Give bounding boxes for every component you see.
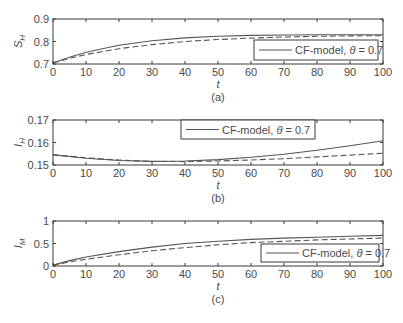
x-tick-label: 100	[374, 167, 392, 179]
y-tick-label: 0.8	[34, 36, 49, 48]
legend: CF-model, θ = 0.7	[181, 120, 315, 139]
y-axis-label: SH	[12, 35, 27, 48]
panel-c: 010203040506070809010000.51IMt(c)CF-mode…	[12, 215, 392, 305]
x-tick-label: 70	[278, 167, 290, 179]
x-tick-label: 80	[311, 268, 323, 280]
panel-caption: (a)	[211, 91, 224, 103]
panel-a: 01020304050607080901000.70.80.9SHt(a)CF-…	[12, 13, 392, 103]
x-tick-label: 10	[80, 66, 92, 78]
x-tick-label: 30	[146, 167, 158, 179]
x-tick-label: 100	[374, 66, 392, 78]
x-tick-label: 0	[50, 167, 56, 179]
legend-label: CF-model, θ = 0.7	[222, 124, 310, 136]
x-tick-label: 90	[344, 66, 356, 78]
legend: CF-model, θ = 0.7	[261, 244, 390, 262]
y-axis-label: IH	[12, 138, 27, 147]
x-tick-label: 50	[212, 66, 224, 78]
x-tick-label: 90	[344, 268, 356, 280]
y-tick-label: 0.16	[28, 137, 49, 149]
panel-caption: (c)	[212, 293, 225, 305]
x-tick-label: 40	[179, 268, 191, 280]
y-tick-label: 0	[43, 260, 49, 272]
x-tick-label: 50	[212, 167, 224, 179]
x-tick-label: 40	[179, 66, 191, 78]
y-tick-label: 1	[43, 215, 49, 227]
x-tick-label: 0	[50, 66, 56, 78]
x-tick-label: 80	[311, 167, 323, 179]
x-tick-label: 0	[50, 268, 56, 280]
legend-label: CF-model, θ = 0.7	[295, 44, 383, 56]
y-tick-label: 0.15	[28, 159, 49, 171]
y-axis-label: IM	[12, 238, 27, 248]
legend-label: CF-model, θ = 0.7	[302, 247, 390, 259]
panel-b: 01020304050607080901000.150.160.17IHt(b)…	[12, 114, 392, 204]
y-tick-label: 0.9	[34, 13, 49, 25]
panel-caption: (b)	[211, 192, 224, 204]
x-tick-label: 30	[146, 66, 158, 78]
y-tick-label: 0.5	[34, 238, 49, 250]
legend: CF-model, θ = 0.7	[254, 40, 383, 60]
x-axis-label: t	[216, 179, 220, 191]
x-tick-label: 100	[374, 268, 392, 280]
x-tick-label: 50	[212, 268, 224, 280]
x-tick-label: 20	[113, 66, 125, 78]
x-tick-label: 60	[245, 167, 257, 179]
dashed-series-line	[53, 153, 383, 161]
x-tick-label: 60	[245, 268, 257, 280]
y-tick-label: 0.7	[34, 58, 49, 70]
x-tick-label: 80	[311, 66, 323, 78]
x-tick-label: 10	[80, 167, 92, 179]
figure: 01020304050607080901000.70.80.9SHt(a)CF-…	[0, 0, 403, 323]
x-tick-label: 30	[146, 268, 158, 280]
x-axis-label: t	[216, 280, 220, 292]
x-tick-label: 10	[80, 268, 92, 280]
x-axis-label: t	[216, 78, 220, 90]
x-tick-label: 20	[113, 268, 125, 280]
x-tick-label: 90	[344, 167, 356, 179]
x-tick-label: 70	[278, 66, 290, 78]
x-tick-label: 60	[245, 66, 257, 78]
x-tick-label: 20	[113, 167, 125, 179]
x-tick-label: 40	[179, 167, 191, 179]
x-tick-label: 70	[278, 268, 290, 280]
y-tick-label: 0.17	[28, 114, 49, 126]
solid-series-line	[53, 141, 383, 162]
